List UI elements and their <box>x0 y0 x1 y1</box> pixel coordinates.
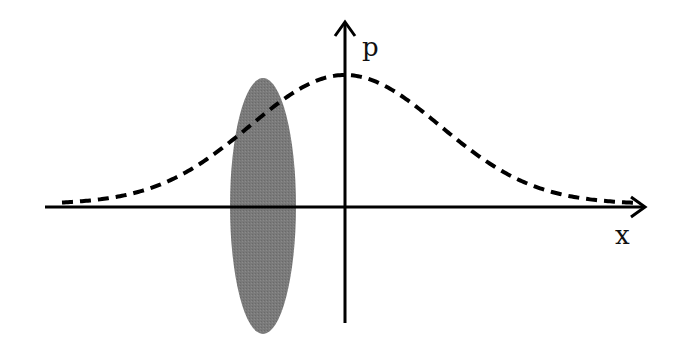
p-axis-label: p <box>362 32 379 62</box>
x-axis-label: x <box>615 220 630 250</box>
gaussian-curve <box>62 75 640 203</box>
diagram-canvas: p x <box>0 0 679 360</box>
